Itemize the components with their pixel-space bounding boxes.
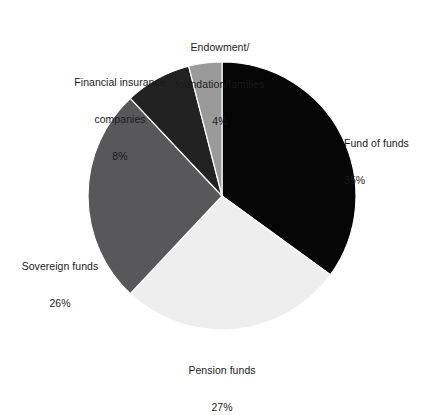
- slice-value-fund-of-funds: 35%: [344, 174, 433, 186]
- slice-value-sovereign-funds: 26%: [4, 297, 116, 309]
- slice-label-pension-funds: Pension funds 27%: [163, 340, 281, 415]
- slice-label-financial-insurance-line2: companies: [50, 113, 190, 125]
- slice-label-fund-of-funds: Fund of funds 35%: [344, 113, 433, 211]
- slice-label-pension-funds-line1: Pension funds: [163, 364, 281, 376]
- slice-label-fund-of-funds-line1: Fund of funds: [344, 137, 433, 149]
- slice-label-financial-insurance-line1: Financial insurance: [50, 76, 190, 88]
- slice-label-financial-insurance: Financial insurance companies 8%: [50, 52, 190, 186]
- slice-label-sovereign-funds-line1: Sovereign funds: [4, 260, 116, 272]
- slice-value-financial-insurance: 8%: [50, 150, 190, 162]
- slice-label-sovereign-funds: Sovereign funds 26%: [4, 236, 116, 334]
- slice-value-pension-funds: 27%: [163, 401, 281, 413]
